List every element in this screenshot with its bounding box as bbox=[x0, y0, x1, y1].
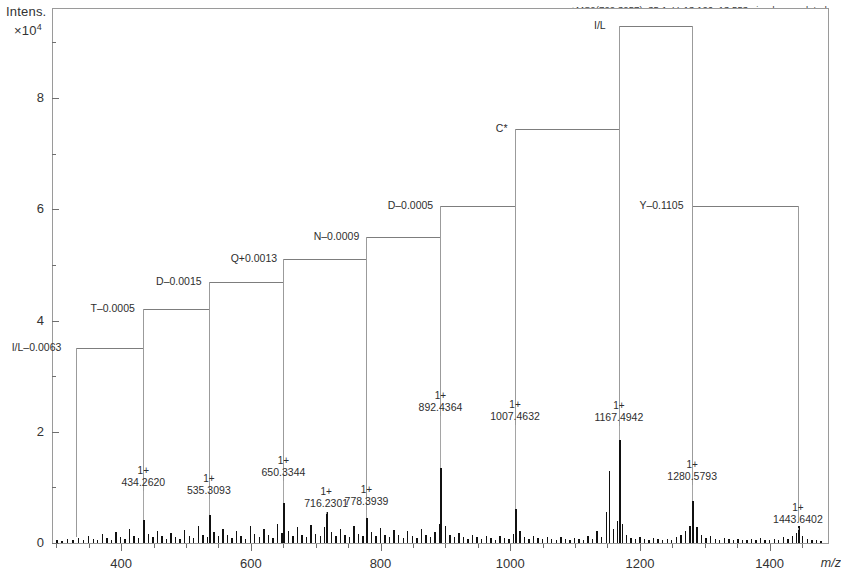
spectrum-peak bbox=[560, 537, 561, 543]
labeled-spectrum-peak bbox=[209, 515, 211, 543]
spectrum-peak bbox=[574, 538, 575, 543]
spectrum-peak bbox=[120, 537, 121, 543]
ladder-residue-label: I/L–0.0063 bbox=[12, 341, 62, 353]
spectrum-peak bbox=[774, 539, 775, 543]
labeled-spectrum-peak bbox=[366, 518, 368, 543]
spectrum-peak bbox=[508, 539, 509, 543]
peak-charge-state: 1+ bbox=[475, 399, 555, 410]
x-axis-tick bbox=[381, 544, 382, 551]
spectrum-peak bbox=[481, 539, 482, 543]
spectrum-peak bbox=[556, 540, 557, 543]
spectrum-peak bbox=[389, 537, 390, 543]
ladder-dropline bbox=[76, 348, 77, 537]
spectrum-peak bbox=[106, 538, 107, 543]
x-axis-tick-label: 1000 bbox=[480, 556, 540, 571]
labeled-spectrum-peak bbox=[326, 512, 328, 543]
ladder-connector bbox=[76, 348, 144, 349]
spectrum-peak bbox=[93, 539, 94, 543]
spectrum-peak bbox=[778, 540, 779, 543]
x-axis-minor-tick bbox=[89, 544, 90, 548]
spectrum-peak bbox=[755, 540, 756, 543]
spectrum-peak bbox=[639, 537, 640, 543]
ladder-dropline bbox=[619, 26, 620, 436]
spectrum-peak bbox=[578, 539, 579, 543]
spectrum-peak bbox=[193, 538, 194, 543]
peak-mz-value: 778.3939 bbox=[326, 495, 406, 507]
ladder-residue-label: I/L bbox=[594, 19, 606, 31]
spectrum-peak bbox=[148, 534, 149, 543]
spectrum-peak bbox=[454, 537, 455, 543]
spectrum-peak bbox=[83, 540, 84, 543]
x-axis-minor-tick bbox=[218, 544, 219, 548]
spectrum-peak bbox=[133, 536, 134, 543]
spectrum-peak bbox=[733, 540, 734, 543]
ladder-dropline bbox=[692, 206, 693, 497]
spectrum-peak bbox=[88, 536, 89, 543]
spectrum-peak bbox=[662, 540, 663, 543]
spectrum-peak bbox=[259, 537, 260, 543]
spectrum-peak bbox=[393, 530, 394, 543]
spectrum-peak bbox=[198, 526, 199, 543]
spectrum-peak bbox=[403, 538, 404, 543]
spectrum-peak bbox=[533, 536, 534, 543]
spectrum-peak bbox=[202, 535, 203, 543]
x-axis-tick-label: 1200 bbox=[610, 556, 670, 571]
spectrum-peak bbox=[696, 527, 697, 543]
spectrum-peak bbox=[102, 534, 103, 543]
peak-callout: 1+1167.4942 bbox=[579, 400, 659, 423]
peak-mz-value: 1443.6402 bbox=[758, 513, 838, 525]
spectrum-peak bbox=[657, 539, 658, 543]
labeled-spectrum-peak bbox=[692, 501, 694, 543]
spectrum-peak bbox=[667, 539, 668, 543]
peak-charge-state: 1+ bbox=[169, 473, 249, 484]
spectrum-peak bbox=[524, 537, 525, 543]
x-axis-minor-tick bbox=[445, 544, 446, 548]
y-axis-exponent: ×104 bbox=[14, 22, 42, 38]
y-axis-title: Intens. bbox=[6, 4, 46, 19]
spectrum-peak bbox=[434, 532, 435, 543]
labeled-spectrum-peak bbox=[440, 468, 442, 543]
spectrum-peak bbox=[742, 540, 743, 543]
spectrum-peak bbox=[680, 535, 681, 543]
spectrum-peak bbox=[635, 539, 636, 543]
spectrum-peak bbox=[111, 540, 112, 543]
spectrum-peak bbox=[606, 512, 607, 543]
spectrum-peak bbox=[542, 539, 543, 543]
spectrum-peak bbox=[705, 538, 706, 543]
spectrum-peak bbox=[375, 536, 376, 543]
y-axis-tick-label: 6 bbox=[18, 201, 44, 216]
labeled-spectrum-peak bbox=[619, 440, 621, 543]
peak-leader-line bbox=[366, 510, 367, 518]
ladder-dropline bbox=[366, 237, 367, 514]
spectrum-peak bbox=[430, 537, 431, 543]
spectrum-peak bbox=[175, 537, 176, 543]
ladder-connector bbox=[209, 282, 284, 283]
spectrum-peak bbox=[250, 526, 251, 543]
spectrum-peak bbox=[179, 539, 180, 543]
spectrum-peak bbox=[227, 535, 228, 543]
spectrum-peak bbox=[254, 534, 255, 543]
x-axis-minor-tick bbox=[575, 544, 576, 548]
spectrum-peak bbox=[537, 538, 538, 543]
spectrum-peak bbox=[380, 528, 381, 543]
spectrum-peak bbox=[231, 538, 232, 543]
peak-callout: 1+1007.4632 bbox=[475, 399, 555, 422]
x-axis-minor-tick bbox=[413, 544, 414, 548]
spectrum-peak bbox=[331, 532, 332, 543]
spectrum-peak bbox=[613, 529, 614, 543]
spectrum-peak bbox=[495, 540, 496, 543]
spectrum-peak bbox=[166, 539, 167, 543]
spectrum-peak bbox=[306, 537, 307, 543]
ladder-connector bbox=[440, 206, 515, 207]
spectrum-peak bbox=[115, 532, 116, 543]
spectrum-peak bbox=[792, 536, 793, 543]
peak-mz-value: 535.3093 bbox=[169, 484, 249, 496]
x-axis-minor-tick bbox=[283, 544, 284, 548]
spectrum-peak bbox=[547, 537, 548, 543]
spectrum-peak bbox=[371, 532, 372, 543]
spectrum-peak bbox=[268, 535, 269, 543]
spectrum-peak bbox=[236, 531, 237, 543]
spectrum-peak bbox=[170, 533, 171, 543]
peak-mz-value: 1167.4942 bbox=[579, 411, 659, 423]
spectrum-peak bbox=[551, 539, 552, 543]
